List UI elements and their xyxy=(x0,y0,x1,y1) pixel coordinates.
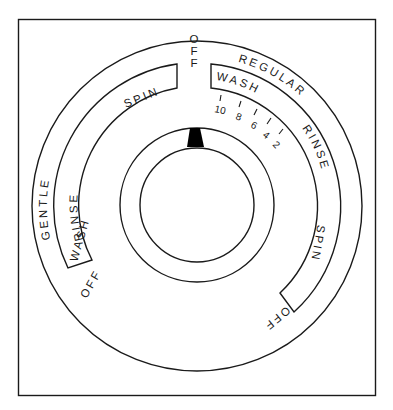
svg-text:4: 4 xyxy=(261,129,273,141)
svg-text:F: F xyxy=(190,45,197,57)
svg-text:F: F xyxy=(190,57,197,69)
outer-ring xyxy=(32,41,362,371)
top-off-label: O F F xyxy=(190,33,199,69)
svg-text:2: 2 xyxy=(271,139,283,151)
washer-dial-diagram: O F F GENTLE REGULAR SPIN RINSE WASH RIN… xyxy=(0,0,393,410)
svg-text:6: 6 xyxy=(249,119,259,132)
svg-text:O: O xyxy=(190,33,199,45)
knob-outer-ring[interactable] xyxy=(120,128,274,282)
gentle-spin-label: SPIN xyxy=(0,0,37,2)
svg-text:8: 8 xyxy=(234,111,243,123)
regular-wash-label: WASH xyxy=(216,70,263,96)
gentle-spin-text: SPIN xyxy=(122,85,161,110)
gentle-off-label: OFF xyxy=(78,267,104,300)
gentle-label: GENTLE xyxy=(37,177,53,242)
svg-text:10: 10 xyxy=(214,103,228,116)
regular-off-label: OFF xyxy=(261,304,292,333)
knob-pointer-icon xyxy=(187,128,204,147)
wash-minute-labels: 10 8 6 4 2 xyxy=(214,103,283,151)
knob-center[interactable] xyxy=(140,148,254,262)
